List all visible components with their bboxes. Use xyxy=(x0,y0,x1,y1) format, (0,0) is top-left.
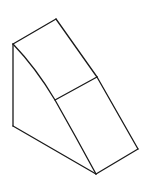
edge-front-slope xyxy=(13,44,96,174)
lower-slope-panel xyxy=(96,77,138,174)
upper-slope-panel xyxy=(13,19,97,100)
wedge-drawing xyxy=(0,0,150,187)
edge-upper-right-slope xyxy=(56,19,97,77)
edge-lower-right-slope xyxy=(97,77,138,149)
edge-bottom-right xyxy=(96,149,138,174)
side-face xyxy=(13,44,96,174)
edge-middle-divider xyxy=(55,77,97,100)
edge-top xyxy=(13,19,56,44)
